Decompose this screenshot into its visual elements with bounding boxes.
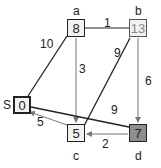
node-s-label: S	[3, 99, 11, 111]
weight-d-c: 2	[102, 138, 109, 150]
node-d-label: d	[135, 150, 142, 162]
weight-a-c: 3	[79, 63, 86, 75]
weight-b-c: 9	[114, 47, 121, 59]
node-a-value: 8	[72, 21, 79, 36]
node-s-value: 0	[18, 98, 25, 113]
weight-s-a: 10	[40, 38, 53, 50]
node-b-value: 13	[131, 21, 145, 36]
node-c: 5	[67, 124, 85, 142]
node-a: 8	[67, 19, 85, 37]
node-d-value: 7	[134, 126, 141, 141]
weight-a-b: 1	[104, 17, 111, 29]
weight-b-d: 6	[145, 75, 152, 87]
weight-c-s: 5	[37, 116, 44, 128]
node-b-label: b	[135, 5, 142, 17]
node-c-label: c	[73, 150, 79, 162]
edge-b-c	[84, 38, 130, 126]
node-d: 7	[129, 124, 147, 142]
node-a-label: a	[73, 5, 80, 17]
weight-s-d: 9	[111, 104, 118, 116]
node-b: 13	[129, 19, 147, 37]
node-c-value: 5	[72, 126, 79, 141]
edge-c-s	[30, 112, 67, 125]
node-s: 0	[13, 96, 31, 114]
